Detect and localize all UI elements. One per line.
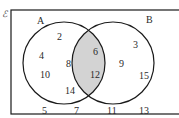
region-outside-value: 13	[139, 105, 149, 116]
region-a-only-value: 14	[65, 85, 75, 96]
venn-diagram: ℰ A B 2 4 8 10 14 6 12 3 9 15 5 7 11 13	[0, 0, 179, 118]
region-outside-value: 11	[107, 105, 117, 116]
universal-set-label: ℰ	[2, 9, 9, 19]
set-b-label: B	[146, 14, 153, 25]
region-intersection-value: 6	[93, 46, 98, 57]
region-b-only-value: 9	[119, 58, 124, 69]
region-a-only-value: 10	[40, 69, 50, 80]
region-a-only-value: 2	[57, 31, 62, 42]
region-a-only-value: 8	[66, 58, 71, 69]
region-intersection-value: 12	[90, 69, 100, 80]
region-b-only-value: 15	[139, 70, 149, 81]
region-a-only-value: 4	[39, 50, 44, 61]
region-outside-value: 7	[74, 105, 79, 116]
region-outside-value: 5	[42, 105, 47, 116]
set-a-label: A	[37, 15, 45, 26]
region-b-only-value: 3	[133, 39, 138, 50]
